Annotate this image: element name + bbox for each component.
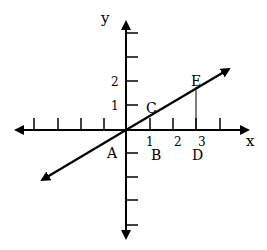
x-axis-label: x	[246, 132, 255, 150]
point-label-C: C	[146, 100, 157, 116]
point-label-E: E	[191, 73, 201, 89]
y-tick-label-2: 2	[111, 75, 119, 89]
point-label-A: A	[106, 145, 118, 161]
point-label-B: B	[151, 147, 161, 163]
point-label-D: D	[192, 147, 203, 163]
coordinate-plane-diagram: y x 1 2 3 1 2 A B C D E	[0, 0, 267, 250]
y-tick-label-1: 1	[111, 99, 119, 113]
x-axis	[16, 118, 248, 130]
x-tick-label-2: 2	[174, 135, 182, 149]
y-axis-label: y	[100, 9, 110, 27]
